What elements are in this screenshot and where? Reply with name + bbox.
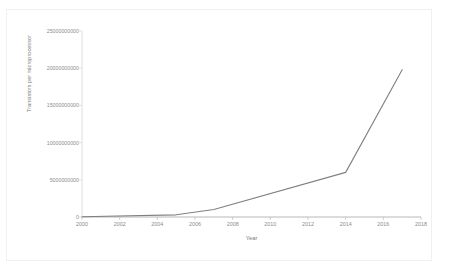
y-axis-tick-labels: 0 5000000000 10000000000 15000000000 200… <box>29 10 79 260</box>
x-tick-label: 2014 <box>340 221 352 228</box>
y-tick-label: 10000000000 <box>47 140 79 146</box>
y-tick-label: 0 <box>76 214 79 220</box>
x-tick-label: 2012 <box>302 221 314 228</box>
y-tick-label: 15000000000 <box>47 102 79 108</box>
x-tick-label: 2002 <box>114 221 126 228</box>
x-tick-label: 2018 <box>415 221 427 228</box>
y-tick-label: 5000000000 <box>50 177 79 183</box>
x-tick-label: 2010 <box>264 221 276 228</box>
y-tick-label: 25000000000 <box>47 28 79 34</box>
x-tick-label: 2016 <box>377 221 389 228</box>
y-axis-title: Transistors per microprocessor <box>26 4 33 144</box>
plot-area: 0 5000000000 10000000000 15000000000 200… <box>7 10 431 260</box>
x-tick-label: 2000 <box>76 221 88 228</box>
x-tick-label: 2008 <box>227 221 239 228</box>
chart-figure: 0 5000000000 10000000000 15000000000 200… <box>6 9 432 261</box>
y-tick-label: 20000000000 <box>47 65 79 71</box>
x-tick-label: 2004 <box>151 221 163 228</box>
x-axis-title: Year <box>82 234 421 242</box>
x-tick-label: 2006 <box>189 221 201 228</box>
